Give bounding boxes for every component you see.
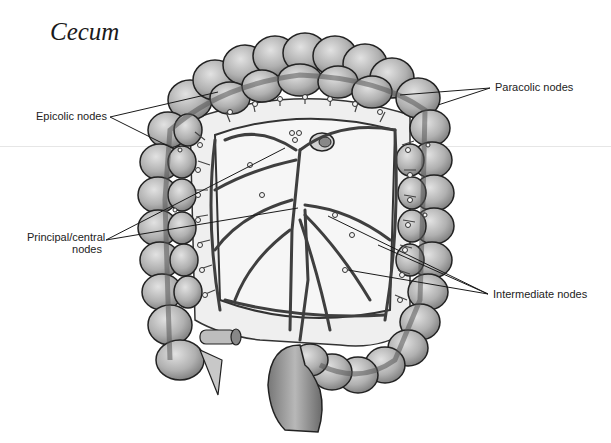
- label-epicolic-nodes: Epicolic nodes: [36, 110, 107, 123]
- label-paracolic-nodes: Paracolic nodes: [495, 81, 573, 94]
- ileum-stub: [200, 329, 241, 345]
- colon-illustration: [0, 0, 611, 443]
- label-intermediate-nodes: Intermediate nodes: [493, 288, 587, 301]
- label-principal-central-nodes-line2: nodes: [27, 243, 102, 256]
- figure-title: Cecum: [50, 18, 119, 46]
- appendix: [200, 350, 222, 395]
